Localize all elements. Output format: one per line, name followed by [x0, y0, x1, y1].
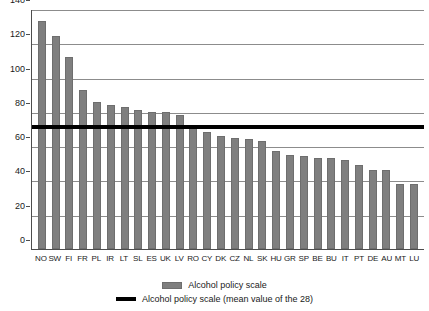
bar-slot: [145, 10, 159, 249]
bar-swatch-icon: [162, 282, 182, 289]
bar: [369, 170, 377, 249]
bar-series: [32, 10, 424, 249]
x-axis-label: NL: [241, 252, 255, 266]
bar-slot: [49, 10, 63, 249]
bar: [355, 165, 363, 249]
bar-slot: [297, 10, 311, 249]
x-axis-label: CY: [200, 252, 214, 266]
y-axis-tick-label: 140: [0, 0, 31, 6]
legend-item-bar: Alcohol policy scale: [162, 280, 267, 290]
bar-slot: [283, 10, 297, 249]
x-axis-label: LV: [172, 252, 186, 266]
y-axis-tick-label: 120: [0, 28, 31, 40]
y-axis-tick-mark: [26, 103, 30, 104]
x-axis-label: MT: [394, 252, 408, 266]
alcohol-policy-scale-chart: 140120100806040200 NOSWFIFRPLIRLTSLESUKL…: [0, 0, 429, 311]
bar-slot: [214, 10, 228, 249]
legend-item-mean-line: Alcohol policy scale (mean value of the …: [116, 294, 313, 304]
x-axis-label: ES: [145, 252, 159, 266]
bar: [38, 21, 46, 249]
y-axis-tick-mark: [26, 0, 30, 1]
bar-slot: [366, 10, 380, 249]
bar-slot: [200, 10, 214, 249]
x-axis-label: BU: [324, 252, 338, 266]
bar-slot: [35, 10, 49, 249]
bar-slot: [393, 10, 407, 249]
bar: [203, 132, 211, 249]
plot-area: [31, 10, 424, 250]
bar: [341, 160, 349, 249]
y-axis-tick-label: 0: [0, 234, 31, 246]
x-axis-label: DE: [366, 252, 380, 266]
y-axis-tick-label: 100: [0, 63, 31, 75]
x-axis-label: PL: [89, 252, 103, 266]
bar-slot: [256, 10, 270, 249]
x-axis-label: DK: [214, 252, 228, 266]
x-axis-label: PT: [352, 252, 366, 266]
y-axis-tick-label: 20: [0, 200, 31, 212]
bar-slot: [159, 10, 173, 249]
x-axis-label: SP: [297, 252, 311, 266]
bar: [79, 90, 87, 249]
bar: [327, 158, 335, 249]
bar-slot: [242, 10, 256, 249]
x-axis-label: SW: [48, 252, 62, 266]
mean-value-line: [32, 125, 424, 129]
bar: [231, 138, 239, 249]
x-axis-label: SL: [131, 252, 145, 266]
x-axis-label: IT: [338, 252, 352, 266]
x-axis-label: LT: [117, 252, 131, 266]
x-axis-label: NO: [34, 252, 48, 266]
bar-slot: [63, 10, 77, 249]
x-axis-label: CZ: [228, 252, 242, 266]
bar: [134, 110, 142, 249]
bar: [65, 57, 73, 249]
x-axis-label: GR: [283, 252, 297, 266]
bar: [148, 112, 156, 249]
bar: [314, 158, 322, 249]
x-axis-label: SK: [255, 252, 269, 266]
bar-slot: [173, 10, 187, 249]
y-axis-tick-label: 40: [0, 165, 31, 177]
bar: [189, 126, 197, 249]
y-axis-tick-mark: [26, 34, 30, 35]
x-axis-label: IR: [103, 252, 117, 266]
bar: [176, 115, 184, 249]
bar: [52, 36, 60, 249]
bar-slot: [131, 10, 145, 249]
bar-slot: [228, 10, 242, 249]
chart-legend: Alcohol policy scale Alcohol policy scal…: [0, 280, 429, 304]
bar: [258, 141, 266, 249]
x-axis-label: FI: [62, 252, 76, 266]
y-axis-tick-mark: [26, 240, 30, 241]
x-axis-label: RO: [186, 252, 200, 266]
x-axis-label: HU: [269, 252, 283, 266]
bar-slot: [90, 10, 104, 249]
y-axis: 140120100806040200: [0, 0, 31, 240]
x-axis-label: UK: [158, 252, 172, 266]
bar: [382, 170, 390, 249]
bar-slot: [311, 10, 325, 249]
line-swatch-icon: [116, 297, 136, 301]
x-axis-label: BE: [311, 252, 325, 266]
bar-slot: [269, 10, 283, 249]
bar-slot: [338, 10, 352, 249]
bar-slot: [104, 10, 118, 249]
y-axis-tick-label: 60: [0, 131, 31, 143]
bar: [410, 184, 418, 249]
bar: [162, 112, 170, 249]
y-axis-tick-label: 80: [0, 97, 31, 109]
y-axis-tick-mark: [26, 206, 30, 207]
bar-slot: [76, 10, 90, 249]
bar-slot: [380, 10, 394, 249]
legend-label-bar: Alcohol policy scale: [188, 280, 267, 290]
bar-slot: [118, 10, 132, 249]
bar: [217, 136, 225, 249]
x-axis-label: AU: [380, 252, 394, 266]
bar: [286, 155, 294, 249]
x-axis-label: LU: [407, 252, 421, 266]
bar-slot: [352, 10, 366, 249]
bar: [272, 151, 280, 249]
bar-slot: [407, 10, 421, 249]
y-axis-tick-mark: [26, 171, 30, 172]
